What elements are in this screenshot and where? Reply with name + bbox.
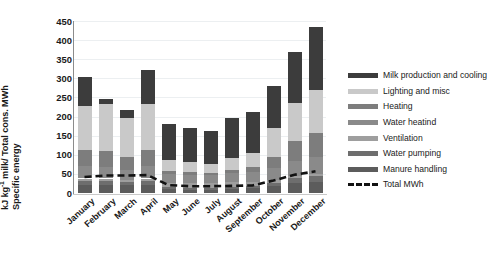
legend-item-5[interactable]: Water pumping — [348, 146, 486, 162]
y-tick-450: 450 — [46, 17, 72, 26]
legend-item-4[interactable]: Ventilation — [348, 130, 486, 146]
legend-item-7[interactable]: Total MWh — [348, 177, 486, 193]
y-tick-250: 250 — [46, 93, 72, 102]
legend-swatch-icon — [348, 89, 378, 94]
legend-item-1[interactable]: Lighting and misc — [348, 84, 486, 100]
legend-label: Ventilation — [383, 134, 423, 143]
legend-swatch-icon — [348, 104, 378, 109]
total-mwh-line — [74, 21, 326, 194]
x-tick-june: June — [179, 196, 201, 217]
y-tick-300: 300 — [46, 74, 72, 83]
x-tick-may: May — [160, 196, 180, 215]
legend-swatch-icon — [348, 167, 378, 172]
legend-label: Milk production and cooling — [383, 71, 487, 80]
y-tick-350: 350 — [46, 55, 72, 64]
legend-label: Water heatind — [383, 118, 436, 127]
legend-item-6[interactable]: Manure handling — [348, 162, 486, 178]
legend-swatch-icon — [348, 120, 378, 125]
legend-label: Heating — [383, 102, 413, 111]
legend-swatch-icon — [348, 136, 378, 141]
chart-legend: Milk production and coolingLighting and … — [348, 68, 486, 193]
y-tick-150: 150 — [46, 131, 72, 140]
legend-swatch-icon — [348, 151, 378, 156]
legend-item-2[interactable]: Heating — [348, 99, 486, 115]
legend-label: Total MWh — [383, 180, 424, 189]
legend-dashed-line-icon — [348, 183, 378, 186]
legend-swatch-icon — [348, 73, 378, 78]
x-tick-april: April — [137, 196, 159, 217]
y-tick-50: 50 — [46, 169, 72, 178]
legend-label: Water pumping — [383, 149, 441, 158]
legend-item-3[interactable]: Water heatind — [348, 115, 486, 131]
y-tick-0: 0 — [46, 189, 72, 198]
y-tick-400: 400 — [46, 36, 72, 45]
legend-item-0[interactable]: Milk production and cooling — [348, 68, 486, 84]
y-axis-tick-labels: 050100150200250300350400450 — [42, 21, 72, 194]
x-tick-march: March — [112, 196, 138, 221]
legend-label: Manure handling — [383, 165, 447, 174]
y-axis-title-line1: Specific energy — [11, 144, 21, 210]
y-axis-title-line2: kJ kg-1 milk/ Total cons. MWh — [0, 85, 10, 210]
x-axis-tick-labels: JanuaryFebruaryMarchAprilMayJuneJulyAugu… — [74, 196, 344, 264]
total-mwh-polyline — [85, 171, 316, 186]
y-axis-title: Specific energy kJ kg-1 milk/ Total cons… — [0, 18, 34, 210]
legend-label: Lighting and misc — [383, 87, 450, 96]
y-tick-100: 100 — [46, 150, 72, 159]
y-tick-200: 200 — [46, 112, 72, 121]
